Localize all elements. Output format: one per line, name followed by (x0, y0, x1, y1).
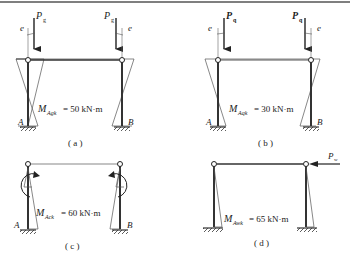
moment-value: = 50 kN·m (63, 104, 103, 114)
moment-label: M (37, 103, 47, 114)
panel-d: P w M Awk = 65 kN·m ( d ) (203, 151, 340, 248)
hinge-icon (26, 162, 31, 167)
fixed-support-icon (20, 230, 36, 234)
load-subscript: g (43, 17, 46, 23)
hinge-icon (216, 58, 221, 63)
hinge-icon (309, 58, 314, 63)
moment-value: = 60 kN·m (61, 208, 101, 218)
moment-label: M (228, 103, 238, 114)
panel-a: e e P g P g M Agk = 50 kN·m A B ( a ) (16, 10, 134, 148)
load-subscript: w (334, 157, 338, 162)
panel-caption: ( a ) (68, 138, 83, 148)
panel-c: M Ack = 60 kN·m A B ( c ) (13, 162, 133, 252)
fixed-support-icon (114, 127, 130, 131)
eccentricity-label: e (20, 23, 24, 33)
fixed-support-icon (112, 230, 128, 234)
moment-subscript: Agk (46, 110, 57, 116)
panel-b: e e P q P q M Aqk = 30 kN·m A B ( b ) (205, 10, 323, 148)
frame-load-diagrams: e e P g P g M Agk = 50 kN·m A B ( a ) (0, 0, 350, 260)
panel-caption: ( d ) (254, 238, 269, 248)
support-label-a: A (13, 220, 20, 230)
load-label: P (226, 10, 233, 21)
support-label-a: A (205, 117, 212, 127)
panel-caption: ( b ) (258, 138, 273, 148)
fixed-support-icon (210, 127, 226, 131)
support-label-b: B (128, 117, 134, 127)
hinge-icon (26, 58, 31, 63)
load-label: P (103, 10, 110, 21)
load-label: P (327, 151, 334, 161)
fixed-support-icon (303, 127, 319, 131)
moment-subscript: Awk (232, 220, 243, 226)
eccentricity-label: e (128, 23, 132, 33)
moment-subscript: Ack (44, 214, 54, 220)
load-subscript: g (111, 17, 114, 23)
load-subscript: q (233, 17, 237, 23)
support-label-b: B (127, 220, 133, 230)
support-label-b: B (317, 117, 323, 127)
panel-caption: ( c ) (65, 241, 80, 251)
load-label: P (35, 10, 42, 21)
moment-label: M (223, 213, 233, 224)
moment-value: = 65 kN·m (249, 214, 289, 224)
fixed-support-icon (203, 228, 223, 232)
load-subscript: q (299, 17, 303, 23)
eccentricity-label: e (317, 23, 321, 33)
hinge-icon (118, 162, 123, 167)
moment-subscript: Aqk (237, 110, 248, 116)
moment-value: = 30 kN·m (254, 104, 294, 114)
fixed-support-icon (297, 228, 317, 232)
hinge-icon (212, 162, 217, 167)
fixed-support-icon (20, 127, 36, 131)
hinge-icon (304, 162, 309, 167)
eccentricity-label: e (208, 23, 212, 33)
moment-label: M (35, 207, 45, 218)
moment-diagram-left (16, 59, 44, 126)
load-label: P (292, 10, 299, 21)
support-label-a: A (17, 117, 24, 127)
hinge-icon (120, 58, 125, 63)
